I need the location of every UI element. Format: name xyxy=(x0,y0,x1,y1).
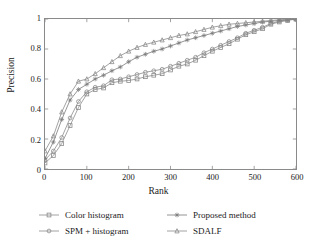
legend-label: SDALF xyxy=(193,226,222,236)
legend-item-proposed-method[interactable]: Proposed method xyxy=(166,207,284,223)
chart-legend: Color histogram Proposed method SPM + hi… xyxy=(38,207,284,239)
legend-item-sdalf[interactable]: SDALF xyxy=(166,223,284,239)
series-color-histogram xyxy=(45,19,296,165)
x-tick-label: 600 xyxy=(291,173,304,182)
y-tick-label: 0.8 xyxy=(30,44,41,53)
x-tick-label: 0 xyxy=(42,173,46,182)
y-tick-label: 0.6 xyxy=(30,75,41,84)
legend-marker-star-icon xyxy=(166,209,188,221)
legend-item-color-histogram[interactable]: Color histogram xyxy=(38,207,156,223)
legend-label: Proposed method xyxy=(193,210,256,220)
plot-area xyxy=(44,18,297,170)
y-tick-label: 0.2 xyxy=(30,135,41,144)
legend-label: SPM + histogram xyxy=(65,226,129,236)
x-tick-label: 300 xyxy=(164,173,177,182)
chart-figure: 0100200300400500600 00.20.40.60.81 Rank … xyxy=(0,0,317,245)
legend-marker-square-icon xyxy=(38,209,60,221)
legend-marker-triangle-icon xyxy=(166,225,188,237)
y-tick-label: 0.4 xyxy=(30,105,41,114)
series-proposed-method xyxy=(45,19,296,161)
legend-item-spm-histogram[interactable]: SPM + histogram xyxy=(38,223,156,239)
chart-canvas xyxy=(45,19,296,169)
legend-label: Color histogram xyxy=(65,210,124,220)
series-spm-histogram xyxy=(45,19,296,162)
x-tick-label: 100 xyxy=(80,173,93,182)
legend-marker-circle-icon xyxy=(38,225,60,237)
y-tick-label: 1 xyxy=(37,14,41,23)
y-axis-title: Precision xyxy=(6,40,16,110)
y-tick-label: 0 xyxy=(37,166,41,175)
x-tick-label: 400 xyxy=(206,173,219,182)
x-tick-label: 500 xyxy=(248,173,261,182)
x-tick-label: 200 xyxy=(122,173,135,182)
series-sdalf xyxy=(45,19,296,153)
x-axis-title: Rank xyxy=(0,186,317,196)
